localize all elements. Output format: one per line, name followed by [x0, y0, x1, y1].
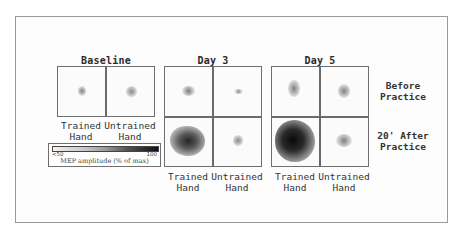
row-label-after-practice: 20' After Practice — [372, 130, 434, 152]
mep-map-blob — [338, 84, 350, 98]
label-line: Untrained — [104, 120, 156, 131]
mep-map-blob — [78, 86, 86, 96]
label-line: Untrained — [318, 171, 370, 182]
mep-map-blob — [170, 126, 205, 156]
mep-map-blob — [234, 89, 243, 94]
legend-caption: MEP amplitude (% of max) — [49, 157, 160, 165]
mep-map-blob — [182, 86, 195, 96]
color-scale-bar — [52, 146, 159, 152]
column-title-day3: Day 3 — [164, 55, 262, 66]
label-line: Hand — [57, 131, 105, 142]
label-line: Hand — [104, 131, 156, 142]
map-day3-trained-before — [165, 67, 213, 116]
label-line: Hand — [164, 182, 212, 193]
map-day3-untrained-before — [214, 67, 261, 116]
label-day5-trained-hand: Trained Hand — [271, 171, 319, 193]
label-line: Untrained — [211, 171, 263, 182]
map-day5-trained-before — [272, 67, 320, 116]
label-line: Hand — [211, 182, 263, 193]
label-baseline-untrained-hand: Untrained Hand — [104, 120, 156, 142]
label-line: 20' After — [372, 130, 434, 141]
map-baseline-untrained — [107, 67, 154, 115]
label-line: Practice — [372, 91, 434, 102]
mep-map-blob — [126, 86, 137, 97]
mep-map-blob — [288, 80, 300, 97]
label-line: Trained — [271, 171, 319, 182]
color-scale-legend: <50 100 MEP amplitude (% of max) — [48, 143, 161, 167]
label-day5-untrained-hand: Untrained Hand — [318, 171, 370, 193]
map-day5-trained-after — [272, 118, 320, 166]
label-line: Hand — [271, 182, 319, 193]
label-day3-untrained-hand: Untrained Hand — [211, 171, 263, 193]
label-line: Before — [372, 80, 434, 91]
label-baseline-trained-hand: Trained Hand — [57, 120, 105, 142]
label-line: Hand — [318, 182, 370, 193]
label-line: Practice — [372, 141, 434, 152]
baseline-grid — [57, 66, 155, 117]
grid-divider — [272, 116, 368, 118]
label-line: Trained — [164, 171, 212, 182]
grid-divider — [165, 116, 261, 118]
map-day5-untrained-after — [321, 118, 368, 166]
day5-grid — [271, 66, 369, 167]
map-day5-untrained-before — [321, 67, 368, 116]
column-title-baseline: Baseline — [57, 55, 155, 66]
mep-map-blob — [275, 120, 315, 162]
map-day3-trained-after — [165, 118, 213, 166]
map-day3-untrained-after — [214, 118, 261, 166]
column-title-day5: Day 5 — [271, 55, 369, 66]
day3-grid — [164, 66, 262, 167]
label-day3-trained-hand: Trained Hand — [164, 171, 212, 193]
mep-map-blob — [336, 134, 352, 147]
label-line: Trained — [57, 120, 105, 131]
row-label-before-practice: Before Practice — [372, 80, 434, 102]
mep-map-blob — [233, 135, 243, 146]
map-baseline-trained — [58, 67, 106, 115]
